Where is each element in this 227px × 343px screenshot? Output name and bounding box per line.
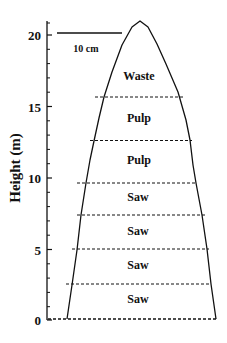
section-labels: Waste Pulp Pulp Saw Saw Saw Saw [123, 69, 155, 306]
section-label-saw-1: Saw [127, 292, 149, 306]
section-label-pulp-upper: Pulp [127, 111, 151, 125]
stem-profile-outline [67, 21, 216, 319]
section-label-saw-4: Saw [127, 190, 149, 204]
section-label-pulp-lower: Pulp [127, 153, 151, 167]
y-axis: 20 15 10 5 0 [28, 21, 52, 328]
y-tick-label-20: 20 [28, 28, 41, 43]
section-boundaries [48, 97, 218, 319]
stem-section-diagram: 20 15 10 5 0 Height (m) 10 cm Waste Pulp… [0, 0, 227, 343]
y-tick-label-15: 15 [28, 100, 42, 115]
y-axis-title: Height (m) [7, 133, 24, 203]
section-label-saw-2: Saw [127, 258, 149, 272]
section-label-saw-3: Saw [127, 224, 149, 238]
y-tick-label-5: 5 [35, 243, 42, 258]
y-tick-label-10: 10 [28, 171, 41, 186]
y-tick-label-0: 0 [35, 313, 42, 328]
section-label-waste: Waste [123, 69, 155, 83]
scale-bar-label: 10 cm [73, 43, 99, 54]
scale-bar: 10 cm [57, 33, 122, 54]
